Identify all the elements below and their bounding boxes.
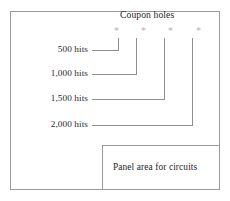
- figure-canvas: Coupon holes * * * * 500 hits 1,000 hits…: [0, 0, 230, 201]
- hit-label-1500: 1,500 hits: [0, 94, 88, 103]
- figure-title: Coupon holes: [120, 10, 174, 20]
- coupon-hole-marker-1: *: [114, 26, 119, 36]
- coupon-hole-marker-2: *: [141, 26, 146, 36]
- panel-area-label: Panel area for circuits: [113, 163, 197, 172]
- hit-label-2000: 2,000 hits: [0, 120, 88, 129]
- hit-label-500: 500 hits: [0, 45, 88, 54]
- coupon-hole-marker-3: *: [168, 26, 173, 36]
- coupon-hole-marker-4: *: [196, 26, 201, 36]
- hit-label-1000: 1,000 hits: [0, 69, 88, 78]
